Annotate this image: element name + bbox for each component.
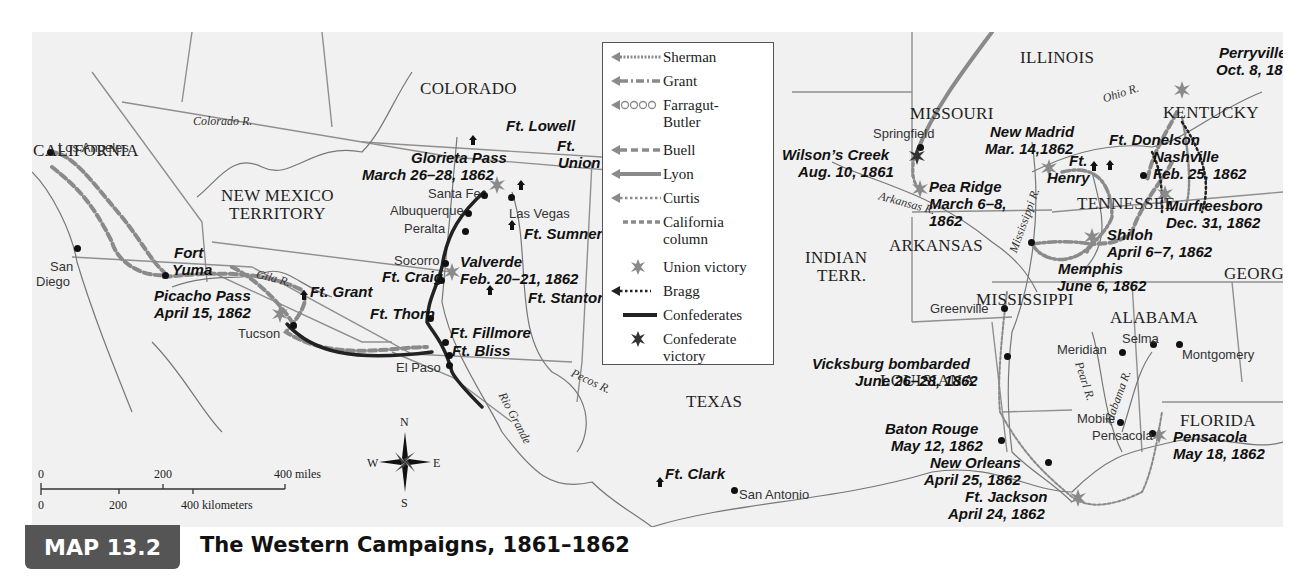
battle-date-new-orleans: April 25, 1862 <box>924 472 1021 487</box>
border-utah-az <box>122 102 632 172</box>
fort-label-ft-henry-2: Henry <box>1047 170 1090 185</box>
region-label-kentucky: KENTUCKY <box>1163 104 1259 121</box>
region-label-indian-terr-1: INDIAN <box>805 249 867 266</box>
battle-date-pensacola: May 18, 1862 <box>1173 446 1265 461</box>
city-label-el-paso: El Paso <box>396 361 441 374</box>
bragg-route-icon <box>609 283 663 299</box>
city-label-selma: Selma <box>1122 332 1159 345</box>
fort-label-ft-fillmore: Ft. Fillmore <box>450 325 531 340</box>
fort-label-ft-bliss: Ft. Bliss <box>452 343 510 358</box>
scale-km-200: 200 <box>109 498 127 513</box>
scale-miles-0: 0 <box>38 467 44 482</box>
lyon-route-icon <box>609 166 663 182</box>
legend-item-grant: Grant <box>609 73 697 93</box>
compass-s: S <box>401 496 408 511</box>
city-dot-el-paso <box>446 362 453 369</box>
battle-date-nashville: Feb. 25, 1862 <box>1153 166 1246 181</box>
union-victory-star-icon <box>609 259 663 275</box>
city-dot-san-diego <box>74 245 81 252</box>
battle-label-picacho-pass: Picacho Pass <box>154 288 251 303</box>
battle-label-pensacola: Pensacola <box>1173 429 1247 444</box>
compass-n: N <box>400 415 409 430</box>
battle-label-ft-jackson: Ft. Jackson <box>965 489 1048 504</box>
scale-miles-400: 400 miles <box>274 467 321 482</box>
battle-label-new-orleans: New Orleans <box>930 455 1021 470</box>
city-label-san-diego-2: Diego <box>36 275 70 288</box>
fort-label-fort-yuma-2: Yuma <box>172 262 212 277</box>
city-dot-baton-rouge <box>998 437 1005 444</box>
legend-item-sherman: Sherman <box>609 49 716 69</box>
battle-label-glorieta-pass: Glorieta Pass <box>411 150 507 165</box>
legend-item-california-column: Californiacolumn <box>609 214 724 254</box>
battle-label-new-madrid: New Madrid <box>990 124 1074 139</box>
region-label-tennessee: TENNESSEE <box>1077 195 1175 212</box>
fort-label-ft-union-2: Union <box>558 155 601 170</box>
battle-label-perryville: Perryville <box>1219 45 1283 60</box>
fort-label-ft-donelson: Ft. Donelson <box>1109 132 1200 147</box>
fort-label-fort-yuma-1: Fort <box>174 245 203 260</box>
map-canvas: CALIFORNIA COLORADO NEW MEXICO TERRITORY… <box>32 32 1283 527</box>
battle-label-vicksburg: Vicksburg bombarded <box>812 356 970 371</box>
city-dot-meridian <box>1119 349 1126 356</box>
legend-item-confederate-victory: Confederatevictory <box>609 331 736 371</box>
legend-item-confederates: Confederates <box>609 307 742 327</box>
region-label-texas: TEXAS <box>686 393 742 410</box>
battle-label-wilsons-creek: Wilson’s Creek <box>782 147 889 162</box>
compass-e: E <box>433 456 440 471</box>
city-dot-new-orleans <box>1045 459 1052 466</box>
city-dot-tucson <box>290 322 297 329</box>
region-label-illinois: ILLINOIS <box>1020 49 1094 66</box>
region-label-nm-territory-2: TERRITORY <box>229 205 326 222</box>
battle-date-pea-ridge-2: 1862 <box>929 213 962 228</box>
fort-icon-lowell <box>469 135 477 145</box>
city-dot-socorro <box>442 260 449 267</box>
city-dot-springfield <box>917 144 924 151</box>
border-nm-north <box>322 32 332 127</box>
farragut-butler-route-icon <box>609 97 663 113</box>
region-label-nm-territory-1: NEW MEXICO <box>221 187 334 204</box>
fort-label-ft-grant: Ft. Grant <box>310 284 373 299</box>
border-la-ms-south <box>1002 410 1072 412</box>
river-label-colorado: Colorado R. <box>193 115 252 127</box>
city-dot-albuquerque <box>465 210 472 217</box>
legend-item-farragut-butler: Farragut-Butler <box>609 97 719 137</box>
coastline-baja <box>152 342 222 432</box>
city-label-springfield: Springfield <box>873 127 934 140</box>
city-dot-memphis <box>1028 239 1035 246</box>
compass-rose <box>379 432 431 492</box>
fort-icon-union <box>517 180 525 190</box>
route-california-column-la <box>50 152 164 272</box>
scale-bar <box>41 483 285 495</box>
city-label-socorro: Socorro <box>394 254 440 267</box>
city-label-las-vegas: Las Vegas <box>509 207 570 220</box>
buell-route-icon <box>609 142 663 158</box>
battle-label-murfreesboro: Murfreesboro <box>1166 198 1263 213</box>
fort-label-ft-sumner: Ft. Sumner <box>524 226 602 241</box>
confederate-victory-star-icon <box>609 331 663 347</box>
sherman-route-icon <box>609 49 663 65</box>
battle-label-shiloh: Shiloh <box>1107 227 1153 242</box>
city-dot-mobile <box>1117 419 1124 426</box>
fort-label-ft-lowell: Ft. Lowell <box>506 118 575 133</box>
fort-label-ft-clark: Ft. Clark <box>665 466 725 481</box>
route-grant-2 <box>1032 242 1092 244</box>
legend-item-curtis: Curtis <box>609 190 700 210</box>
region-label-colorado: COLORADO <box>420 80 517 97</box>
city-dot-peralta <box>462 228 469 235</box>
river-tennessee <box>1082 172 1102 272</box>
city-label-meridian: Meridian <box>1057 343 1107 356</box>
battle-date-glorieta-pass: March 26–28, 1862 <box>362 167 494 182</box>
battle-date-memphis: June 6, 1862 <box>1057 278 1146 293</box>
battle-label-valverde: Valverde <box>460 254 522 269</box>
fort-label-ft-union-1: Ft. <box>557 138 575 153</box>
scale-miles-200: 200 <box>154 467 172 482</box>
union-victory-star-perryville <box>1174 81 1190 99</box>
battle-date-shiloh: April 6–7, 1862 <box>1107 244 1212 259</box>
battle-label-memphis: Memphis <box>1058 261 1123 276</box>
border-nm-east <box>577 162 592 402</box>
city-dot-ft-fillmore <box>442 339 449 346</box>
map-number-badge: MAP 13.2 <box>25 525 180 569</box>
legend-item-union-victory: Union victory <box>609 259 747 279</box>
battle-date-picacho-pass: April 15, 1862 <box>154 305 251 320</box>
region-label-florida: FLORIDA <box>1180 412 1256 429</box>
